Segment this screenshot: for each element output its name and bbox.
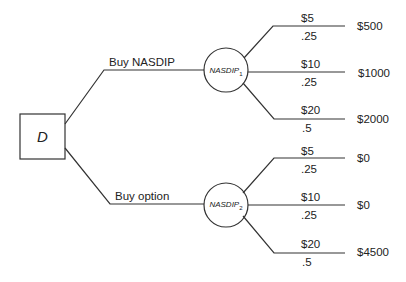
outcome-value: $10 bbox=[301, 192, 320, 204]
outcome-prob: .5 bbox=[302, 257, 312, 269]
outcome-value: $10 bbox=[301, 59, 320, 71]
outcome-prob: .5 bbox=[302, 123, 312, 135]
outcome-prob: .25 bbox=[301, 77, 317, 89]
outcome-payoff: $4500 bbox=[357, 247, 389, 259]
outcome-payoff: $0 bbox=[357, 153, 370, 165]
outcome-payoff: $1000 bbox=[358, 68, 390, 80]
outcome-value: $5 bbox=[301, 146, 314, 158]
outcome-payoff: $500 bbox=[357, 21, 383, 33]
chance-node-2-label: NASDIP2 bbox=[183, 201, 269, 211]
outcome-value: $20 bbox=[301, 105, 320, 117]
outcome-prob: .25 bbox=[301, 164, 317, 176]
outcome-prob: .25 bbox=[301, 210, 317, 222]
branch-label-buy-nasdip: Buy NASDIP bbox=[109, 57, 175, 69]
outcome-payoff: $0 bbox=[357, 200, 370, 212]
outcome-prob: .25 bbox=[301, 31, 317, 43]
outcome-payoff: $2000 bbox=[357, 114, 389, 126]
branch-label-buy-option: Buy option bbox=[115, 191, 169, 203]
decision-node-label: D bbox=[37, 129, 48, 144]
chance-node-1-label: NASDIP1 bbox=[183, 67, 269, 77]
decision-tree-lines bbox=[0, 0, 406, 282]
outcome-value: $20 bbox=[301, 239, 320, 251]
outcome-value: $5 bbox=[301, 13, 314, 25]
